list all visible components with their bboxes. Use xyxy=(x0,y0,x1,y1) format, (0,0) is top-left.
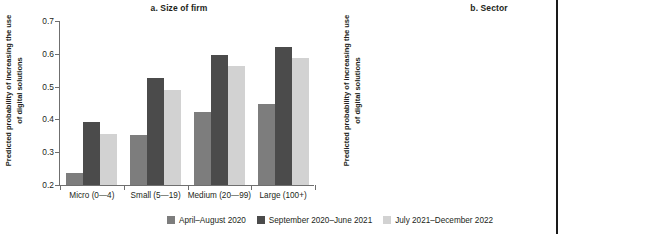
y-tick-label: 0.5 xyxy=(42,82,54,92)
y-tick-mark xyxy=(55,119,60,120)
bar-group xyxy=(194,21,245,185)
bar xyxy=(258,104,275,185)
x-tick-mark xyxy=(251,185,252,190)
legend-swatch-icon xyxy=(383,216,391,224)
x-tick-label: Large (100+) xyxy=(228,191,338,200)
legend-label: July 2021–December 2022 xyxy=(395,216,493,225)
bar xyxy=(100,134,117,185)
panel-a-title: a. Size of firm xyxy=(0,3,330,13)
x-tick-mark xyxy=(124,185,125,190)
bar xyxy=(66,173,83,185)
panel-a-y-axis-line xyxy=(59,21,60,186)
bar xyxy=(292,58,309,185)
legend-label: April–August 2020 xyxy=(179,216,246,225)
legend-item: July 2021–December 2022 xyxy=(383,216,493,225)
bar xyxy=(211,55,228,185)
panel-b-title: b. Sector xyxy=(330,3,660,13)
chart-legend: April–August 2020September 2020–June 202… xyxy=(0,206,660,234)
figure-root: a. Size of firm Predicted probability of… xyxy=(0,0,660,234)
bar xyxy=(275,47,292,185)
bar-group xyxy=(130,21,181,185)
legend-label: September 2020–June 2021 xyxy=(269,216,372,225)
panel-a-x-axis-line xyxy=(59,185,314,186)
legend-item: April–August 2020 xyxy=(167,216,246,225)
y-tick-label: 0.7 xyxy=(42,16,54,26)
y-tick-mark xyxy=(55,54,60,55)
y-tick-label: 0.3 xyxy=(42,147,54,157)
bar xyxy=(228,66,245,185)
y-tick-label: 0.6 xyxy=(42,49,54,59)
y-tick-mark xyxy=(55,21,60,22)
panel-a-plot-area: 0.20.30.40.50.60.7Micro (0—4)Small (5—19… xyxy=(60,21,315,185)
y-tick-label: 0.2 xyxy=(42,180,54,190)
x-tick-mark xyxy=(60,185,61,190)
bar xyxy=(130,135,147,185)
bar xyxy=(147,78,164,185)
x-tick-mark xyxy=(315,185,316,190)
x-tick-mark xyxy=(188,185,189,190)
page-fold-line xyxy=(556,0,558,234)
chart-panel-b: b. Sector Predicted probability of incre… xyxy=(330,0,660,206)
bar xyxy=(83,122,100,185)
panel-a-y-axis-label: Predicted probability of increasing the … xyxy=(4,11,25,171)
bar-group xyxy=(66,21,117,185)
y-tick-mark xyxy=(55,152,60,153)
bar xyxy=(164,90,181,185)
bar-group xyxy=(258,21,309,185)
legend-swatch-icon xyxy=(167,216,175,224)
bar xyxy=(194,112,211,185)
panel-b-y-axis-label: Predicted probability of increasing the … xyxy=(342,11,363,171)
chart-panel-a: a. Size of firm Predicted probability of… xyxy=(0,0,330,206)
legend-item: September 2020–June 2021 xyxy=(257,216,372,225)
legend-swatch-icon xyxy=(257,216,265,224)
y-tick-mark xyxy=(55,87,60,88)
y-tick-label: 0.4 xyxy=(42,114,54,124)
